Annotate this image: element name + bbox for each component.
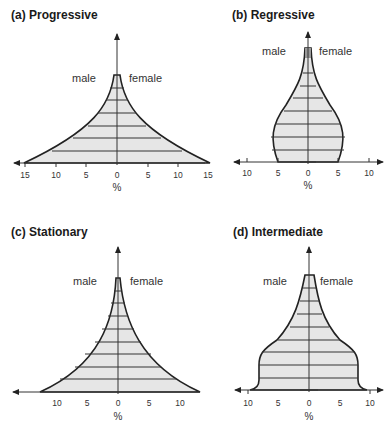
panel-b-title: (b) Regressive bbox=[232, 8, 315, 22]
panel-a-title: (a) Progressive bbox=[11, 8, 98, 22]
panel-b-female-label: female bbox=[319, 45, 352, 57]
panel-d-tick: 10 bbox=[365, 398, 374, 408]
panel-d-tick: 0 bbox=[307, 398, 312, 408]
panel-a-tick: 15 bbox=[20, 170, 29, 180]
population-pyramids-diagram bbox=[0, 0, 391, 432]
pyramid-progressive bbox=[14, 34, 210, 167]
panel-a-male-label: male bbox=[72, 72, 96, 84]
panel-d-tick: 5 bbox=[276, 398, 281, 408]
pyramid-regressive bbox=[234, 32, 383, 164]
panel-c-tick: 10 bbox=[52, 398, 61, 408]
panel-a-tick: 15 bbox=[203, 170, 212, 180]
panel-a-tick: 0 bbox=[115, 170, 120, 180]
panel-c-tick: 5 bbox=[147, 398, 152, 408]
panel-a-tick: 5 bbox=[84, 170, 89, 180]
panel-c-unit: % bbox=[114, 411, 123, 422]
panel-b-unit: % bbox=[304, 180, 313, 191]
panel-b-tick: 5 bbox=[276, 168, 281, 178]
panel-d-male-label: male bbox=[263, 275, 287, 287]
panel-a-unit: % bbox=[113, 182, 122, 193]
panel-c-tick: 5 bbox=[85, 398, 90, 408]
panel-b-tick: 10 bbox=[242, 168, 251, 178]
panel-b-male-label: male bbox=[262, 45, 286, 57]
panel-d-title: (d) Intermediate bbox=[233, 225, 323, 239]
panel-a-tick: 5 bbox=[146, 170, 151, 180]
panel-d-unit: % bbox=[305, 411, 314, 422]
panel-b-tick: 0 bbox=[306, 168, 311, 178]
panel-d-female-label: female bbox=[320, 275, 353, 287]
panel-c-title: (c) Stationary bbox=[11, 225, 88, 239]
panel-c-male-label: male bbox=[73, 275, 97, 287]
panel-a-tick: 10 bbox=[173, 170, 182, 180]
panel-c-tick: 10 bbox=[175, 398, 184, 408]
panel-a-female-label: female bbox=[129, 72, 162, 84]
pyramid-stationary bbox=[13, 247, 200, 394]
panel-b-tick: 5 bbox=[336, 168, 341, 178]
panel-a-tick: 10 bbox=[51, 170, 60, 180]
panel-b-tick: 10 bbox=[364, 168, 373, 178]
panel-c-tick: 0 bbox=[116, 398, 121, 408]
panel-d-tick: 10 bbox=[243, 398, 252, 408]
panel-d-tick: 5 bbox=[338, 398, 343, 408]
panel-c-female-label: female bbox=[130, 275, 163, 287]
pyramid-intermediate bbox=[235, 247, 383, 394]
